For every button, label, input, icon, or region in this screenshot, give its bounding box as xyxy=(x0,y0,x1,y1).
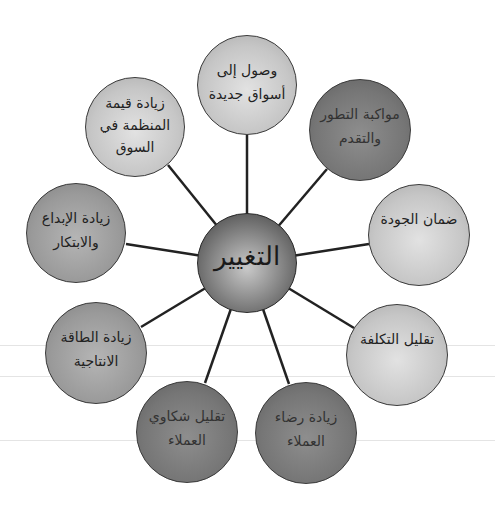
node-label: زيادة الطاقة الانتاجية xyxy=(50,325,141,373)
node-customer-satisfaction: زيادة رضاء العملاء xyxy=(255,382,357,484)
center-hub-change: التغيير xyxy=(197,213,297,313)
node-label: مواكبة التطور والتقدم xyxy=(310,102,409,150)
node-quality-assurance: ضمان الجودة xyxy=(368,184,470,286)
node-label: تقليل شكاوي العملاء xyxy=(139,404,235,452)
node-label: زيادة الإبداع والابتكار xyxy=(32,206,120,254)
node-productivity: زيادة الطاقة الانتاجية xyxy=(45,302,147,404)
node-keep-up-with-progress: مواكبة التطور والتقدم xyxy=(309,79,411,181)
node-cost-reduction: تقليل التكلفة xyxy=(346,304,448,406)
node-label: وصول إلى أسواق جديدة xyxy=(199,58,296,106)
node-reduce-complaints: تقليل شكاوي العملاء xyxy=(136,381,238,483)
node-label: زيادة قيمة المنظمة في السوق xyxy=(90,92,180,158)
node-label: زيادة رضاء العملاء xyxy=(265,405,347,453)
node-label: ضمان الجودة xyxy=(371,207,468,231)
node-access-new-markets: وصول إلى أسواق جديدة xyxy=(197,35,297,135)
node-creativity-innovation: زيادة الإبداع والابتكار xyxy=(26,183,126,283)
hub-label: التغيير xyxy=(204,241,290,271)
node-organization-value: زيادة قيمة المنظمة في السوق xyxy=(85,77,185,177)
node-label: تقليل التكلفة xyxy=(350,327,444,351)
